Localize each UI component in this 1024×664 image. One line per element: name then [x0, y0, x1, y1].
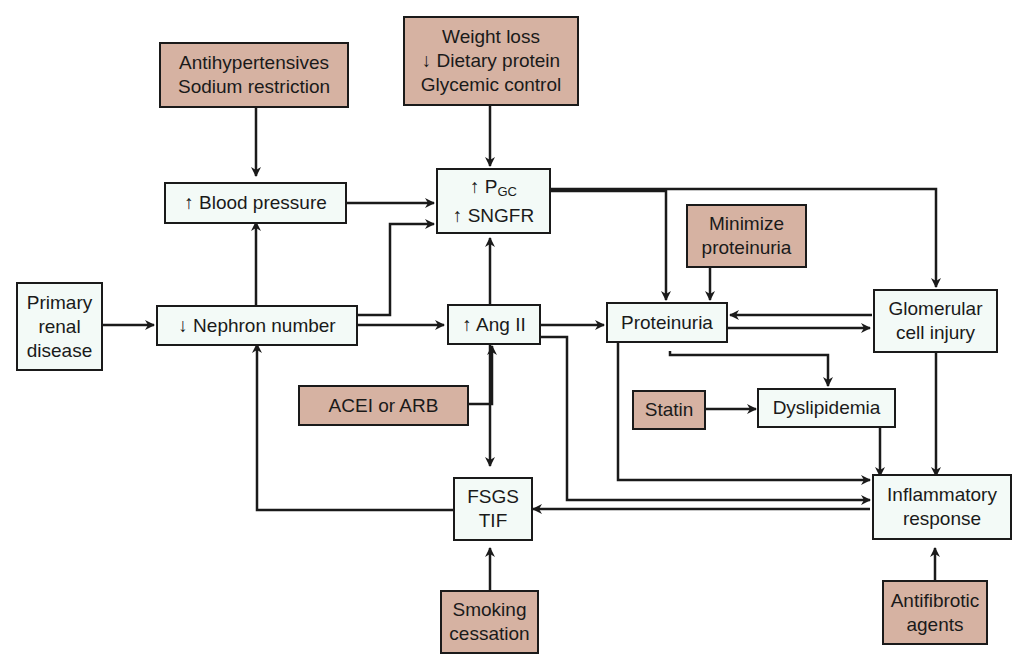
node-label: response: [903, 507, 981, 531]
intervention-antihypertensives: Antihypertensives Sodium restriction: [159, 42, 349, 108]
intervention-minimize-proteinuria: Minimize proteinuria: [686, 204, 807, 268]
node-label: Sodium restriction: [178, 75, 330, 99]
intervention-smoking-cessation: Smoking cessation: [440, 590, 539, 654]
intervention-statin: Statin: [632, 390, 706, 430]
node-label-subscript: GC: [497, 184, 517, 199]
node-blood-pressure: ↑ Blood pressure: [164, 182, 347, 224]
node-proteinuria: Proteinuria: [606, 302, 728, 343]
node-label: Glomerular: [889, 297, 983, 321]
intervention-antifibrotic-agents: Antifibrotic agents: [882, 580, 988, 645]
intervention-acei-arb: ACEI or ARB: [298, 385, 469, 426]
node-label: Smoking: [453, 598, 527, 622]
node-pgc-sngfr: ↑ PGC ↑ SNGFR: [436, 168, 551, 234]
node-nephron-number: ↓ Nephron number: [156, 305, 358, 346]
intervention-weight-loss: Weight loss ↓ Dietary protein Glycemic c…: [403, 16, 579, 106]
node-label: ↓ Dietary protein: [422, 49, 560, 73]
node-label: ↑ PGC: [470, 175, 517, 204]
node-label: TIF: [479, 509, 508, 533]
node-label: Proteinuria: [621, 311, 713, 335]
node-label: proteinuria: [702, 236, 792, 260]
node-inflammatory-response: Inflammatory response: [872, 474, 1012, 540]
node-label: Glycemic control: [421, 73, 561, 97]
node-label: disease: [27, 339, 93, 363]
node-label-main: ↑ P: [470, 176, 497, 197]
node-label: FSGS: [467, 485, 519, 509]
node-label: Antifibrotic: [891, 589, 980, 613]
node-label: Primary: [27, 291, 92, 315]
node-label: Weight loss: [442, 25, 540, 49]
node-label: renal: [38, 315, 80, 339]
node-primary-renal-disease: Primary renal disease: [16, 282, 103, 371]
node-label: agents: [906, 613, 963, 637]
node-fsgs-tif: FSGS TIF: [453, 477, 533, 541]
node-label: cell injury: [896, 321, 975, 345]
node-label: Minimize: [709, 212, 784, 236]
node-label: ↓ Nephron number: [178, 314, 335, 338]
node-dyslipidemia: Dyslipidemia: [757, 388, 896, 428]
node-label: ↑ Blood pressure: [184, 191, 327, 215]
node-glomerular-cell-injury: Glomerular cell injury: [873, 289, 998, 353]
node-label: cessation: [449, 622, 529, 646]
node-label: Statin: [645, 398, 694, 422]
node-ang-ii: ↑ Ang II: [447, 304, 541, 345]
node-label: Inflammatory: [887, 483, 997, 507]
node-label: ↑ Ang II: [462, 313, 525, 337]
node-label: ACEI or ARB: [329, 394, 439, 418]
node-label: ↑ SNGFR: [453, 204, 534, 228]
node-label: Antihypertensives: [179, 51, 329, 75]
node-label: Dyslipidemia: [773, 396, 881, 420]
